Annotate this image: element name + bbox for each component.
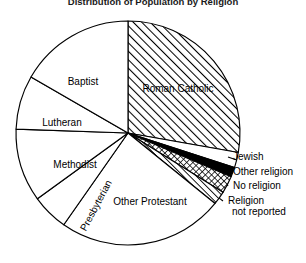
slice-label-other-religion: Other religion <box>233 166 293 177</box>
slice-label-baptist: Baptist <box>68 76 99 87</box>
pie-slices-group <box>16 21 240 245</box>
leader-line-no-religion <box>227 185 228 186</box>
pie-chart-svg: Distribution of Population by Religion R… <box>0 0 306 263</box>
pie-chart-figure: Distribution of Population by Religion R… <box>0 0 306 263</box>
slice-label-other-protestant: Other Protestant <box>113 196 187 207</box>
chart-title: Distribution of Population by Religion <box>68 0 239 7</box>
slice-label-lutheran: Lutheran <box>42 117 81 128</box>
slice-label-religion-not-reported-line2: not reported <box>232 206 286 217</box>
slice-label-jewish: Jewish <box>233 151 264 162</box>
slice-label-no-religion: No religion <box>233 180 281 191</box>
slice-label-roman-catholic: Roman Catholic <box>142 83 213 94</box>
slice-label-methodist: Methodist <box>53 159 97 170</box>
